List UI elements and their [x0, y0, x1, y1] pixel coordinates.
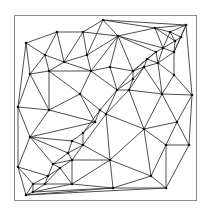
vertex-point	[29, 136, 32, 139]
triangulation-edge	[155, 28, 170, 32]
vertex-point	[90, 70, 93, 73]
vertex-point	[154, 27, 157, 30]
triangulation-edge	[26, 43, 45, 55]
triangulation-edge	[80, 94, 100, 110]
vertex-point	[165, 187, 168, 190]
triangulation-edge	[64, 62, 91, 71]
triangulation-edge	[83, 32, 118, 36]
vertex-point	[162, 47, 165, 50]
vertex-point	[161, 93, 164, 96]
triangulation-edge	[30, 55, 45, 74]
triangulation-edge	[166, 122, 177, 145]
triangulation-edge	[186, 25, 192, 95]
vertex-point	[44, 183, 47, 186]
vertex-point	[188, 144, 191, 147]
triangulation-edge	[49, 71, 80, 94]
triangulation-edge	[26, 43, 30, 74]
vertex-point	[47, 175, 50, 178]
triangulation-edge	[30, 137, 53, 164]
triangulation-edge	[18, 107, 30, 137]
triangulation-edge	[45, 55, 64, 62]
triangulation-edge	[162, 75, 174, 94]
vertex-point	[169, 31, 172, 34]
triangulation-edge	[177, 95, 192, 122]
triangulation-edge	[106, 90, 129, 114]
vertex-point	[132, 78, 135, 81]
triangulation-edge	[113, 176, 151, 188]
triangulation-edge	[72, 141, 83, 145]
vertex-point	[59, 167, 62, 170]
triangulation-edge	[162, 94, 192, 95]
triangulation-edge	[106, 114, 110, 160]
vertex-point	[102, 19, 105, 22]
triangulation-edge	[100, 90, 117, 110]
vertex-point	[67, 152, 70, 155]
triangulation-edge	[118, 36, 163, 48]
vertex-point	[99, 109, 102, 112]
triangulation-edge	[110, 160, 113, 188]
triangulation-edge	[60, 168, 72, 184]
vertex-point	[82, 144, 85, 147]
triangulation-edge	[30, 74, 49, 110]
triangulation-edge	[91, 36, 118, 71]
vertex-point	[176, 121, 179, 124]
vertex-point	[71, 140, 74, 143]
vertex-point	[150, 175, 153, 178]
vertex-point	[94, 121, 97, 124]
vertex-point	[63, 61, 66, 64]
triangulation-edge	[45, 55, 49, 71]
vertex-point	[109, 159, 112, 162]
vertex-point	[29, 73, 32, 76]
triangulation-edge	[147, 59, 158, 63]
triangulation-edge	[83, 110, 100, 133]
triangulation-edge	[156, 52, 158, 63]
vertex-point	[44, 54, 47, 57]
triangulation-edge	[151, 145, 166, 176]
triangulation-edge	[162, 94, 177, 122]
triangulation-edge	[30, 137, 68, 153]
triangulation-edge	[103, 20, 186, 25]
vertex-point	[128, 89, 131, 92]
vertex-point	[79, 93, 82, 96]
triangulation-edge	[87, 55, 91, 71]
vertex-point	[32, 183, 35, 186]
vertex-point	[82, 31, 85, 34]
triangulation-edge	[18, 137, 30, 167]
vertex-point	[185, 24, 188, 27]
triangulation-edge	[158, 52, 174, 63]
triangulation-edge	[49, 94, 80, 110]
vertex-point	[116, 89, 119, 92]
vertex-point	[71, 159, 74, 162]
vertex-point	[86, 54, 89, 57]
triangulation-edge	[83, 32, 87, 55]
triangulation-edge	[166, 145, 189, 188]
triangulation-edge	[110, 129, 144, 160]
triangulation-edge	[110, 67, 117, 90]
vertex-point	[52, 163, 55, 166]
triangulation-edge	[49, 62, 64, 71]
triangulation-edge	[158, 63, 174, 75]
vertex-point	[48, 70, 51, 73]
vertex-point	[71, 183, 74, 186]
vertex-point	[32, 191, 35, 194]
triangulation-edge	[106, 90, 117, 114]
triangulation-edge	[151, 176, 166, 188]
triangulation-diagram	[0, 0, 208, 210]
triangulation-edge	[80, 71, 91, 94]
triangulation-edge	[163, 48, 174, 52]
vertex-point	[17, 106, 20, 109]
triangulation-edge	[174, 75, 192, 95]
triangulation-edge	[80, 94, 95, 122]
triangulation-edge	[72, 133, 83, 141]
triangulation-edge	[144, 63, 158, 67]
vertex-point	[105, 113, 108, 116]
vertex-point	[117, 35, 120, 38]
vertex-point	[143, 128, 146, 131]
triangulation-edge	[147, 52, 156, 59]
triangulation-edge	[72, 160, 110, 184]
triangulation-edge	[18, 43, 26, 107]
vertex-point	[112, 187, 115, 190]
triangulation-edge	[144, 122, 177, 129]
triangulation-edge	[18, 107, 49, 110]
vertex-point	[174, 40, 177, 43]
